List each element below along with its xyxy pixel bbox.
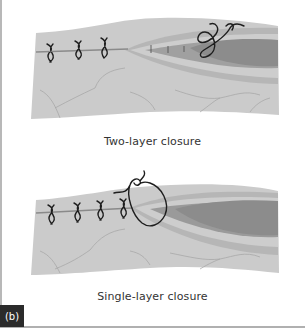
- caption-single-layer: Single-layer closure: [0, 290, 305, 303]
- figure-frame: Two-layer closure: [0, 0, 305, 329]
- single-layer-closure-illustration: [0, 165, 305, 285]
- frame-bottom-border: [0, 326, 305, 328]
- two-layer-closure-illustration: [0, 0, 305, 130]
- panel-label-badge: (b): [0, 305, 24, 327]
- panel-single-layer-closure: Single-layer closure: [0, 165, 305, 305]
- panel-two-layer-closure: Two-layer closure: [0, 0, 305, 150]
- caption-two-layer: Two-layer closure: [0, 135, 305, 148]
